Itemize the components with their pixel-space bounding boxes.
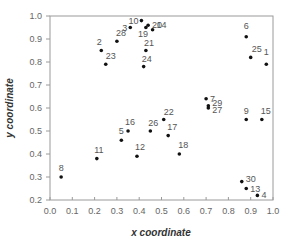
y-tick-label: 0.8 — [29, 57, 42, 67]
data-point-marker — [244, 35, 248, 39]
data-point-label: 11 — [94, 145, 103, 155]
plot-frame — [50, 16, 273, 200]
data-point-label: 8 — [59, 163, 64, 173]
x-tick-label: 0.0 — [44, 206, 57, 216]
data-point-label: 1 — [264, 47, 269, 57]
x-tick-label: 0.5 — [155, 206, 168, 216]
data-point-marker — [104, 63, 108, 67]
x-tick-label: 0.6 — [178, 206, 191, 216]
data-point-marker — [240, 180, 244, 184]
y-tick-label: 0.6 — [29, 103, 42, 113]
data-point-marker — [142, 65, 146, 69]
data-point-label: 21 — [144, 38, 154, 48]
data-point-label: 22 — [164, 107, 174, 117]
x-tick-label: 0.3 — [111, 206, 124, 216]
data-point-label: 9 — [244, 106, 249, 116]
data-point-marker — [204, 97, 208, 101]
x-tick-label: 0.2 — [88, 206, 101, 216]
data-point-label: 24 — [142, 54, 152, 64]
data-point-marker — [244, 187, 248, 191]
data-point-label: 23 — [106, 51, 116, 61]
x-tick-label: 1.0 — [267, 206, 280, 216]
data-point-label: 4 — [261, 190, 266, 200]
data-point-label: 29 — [212, 98, 222, 108]
data-point-marker — [95, 157, 99, 161]
data-point-label: 6 — [244, 21, 249, 31]
data-point-marker — [126, 129, 130, 133]
data-point-label: 18 — [178, 140, 188, 150]
y-tick-label: 0.4 — [29, 149, 42, 159]
data-point-marker — [140, 19, 144, 23]
y-tick-label: 0.9 — [29, 34, 42, 44]
y-axis-ticks: 0.20.30.40.50.60.70.80.91.0 — [29, 11, 50, 205]
data-point-label: 2 — [97, 37, 102, 47]
data-point-marker — [59, 175, 63, 179]
data-point-label: 12 — [135, 142, 145, 152]
data-points: 1234567891011121314151617181920212223242… — [59, 16, 271, 201]
x-tick-label: 0.8 — [222, 206, 235, 216]
x-axis-label: x coordinate — [130, 227, 191, 238]
data-point-label: 17 — [167, 122, 177, 132]
data-point-marker — [162, 118, 166, 122]
data-point-label: 20 — [152, 20, 162, 30]
data-point-label: 15 — [261, 106, 271, 116]
data-point-marker — [146, 23, 150, 27]
y-axis-label: y coordinate — [4, 78, 15, 139]
x-tick-label: 0.1 — [66, 206, 79, 216]
data-point-label: 16 — [125, 117, 135, 127]
data-point-marker — [135, 155, 139, 159]
data-point-label: 26 — [148, 118, 158, 128]
data-point-marker — [99, 49, 103, 53]
y-tick-label: 0.2 — [29, 195, 42, 205]
data-point-marker — [256, 194, 260, 198]
data-point-marker — [265, 63, 269, 67]
x-tick-label: 0.7 — [200, 206, 213, 216]
scatter-chart: 0.00.10.20.30.40.50.60.70.80.91.0 0.20.3… — [0, 0, 292, 244]
data-point-marker — [178, 152, 182, 156]
data-point-label: 25 — [252, 44, 262, 54]
y-tick-label: 0.5 — [29, 126, 42, 136]
data-point-label: 28 — [116, 28, 126, 38]
x-tick-label: 0.9 — [244, 206, 257, 216]
data-point-label: 30 — [246, 174, 256, 184]
data-point-label: 10 — [128, 16, 138, 26]
y-tick-label: 0.3 — [29, 172, 42, 182]
data-point-marker — [144, 49, 148, 53]
data-point-marker — [128, 26, 132, 30]
x-tick-label: 0.4 — [133, 206, 146, 216]
y-tick-label: 1.0 — [29, 11, 42, 21]
data-point-marker — [244, 118, 248, 122]
data-point-label: 13 — [250, 184, 260, 194]
data-point-label: 5 — [119, 126, 124, 136]
data-point-marker — [120, 138, 124, 142]
data-point-marker — [115, 40, 119, 44]
data-point-marker — [207, 104, 211, 108]
data-point-marker — [249, 56, 253, 60]
data-point-marker — [149, 129, 153, 133]
data-point-marker — [166, 134, 170, 138]
y-tick-label: 0.7 — [29, 80, 42, 90]
data-point-marker — [260, 118, 264, 122]
